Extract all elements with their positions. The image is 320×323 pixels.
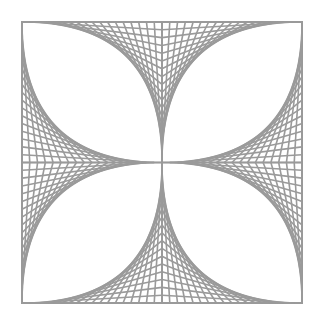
string-art-figure bbox=[0, 0, 320, 323]
stitch-lines bbox=[22, 22, 302, 303]
curve-stitching-canvas bbox=[0, 0, 320, 323]
